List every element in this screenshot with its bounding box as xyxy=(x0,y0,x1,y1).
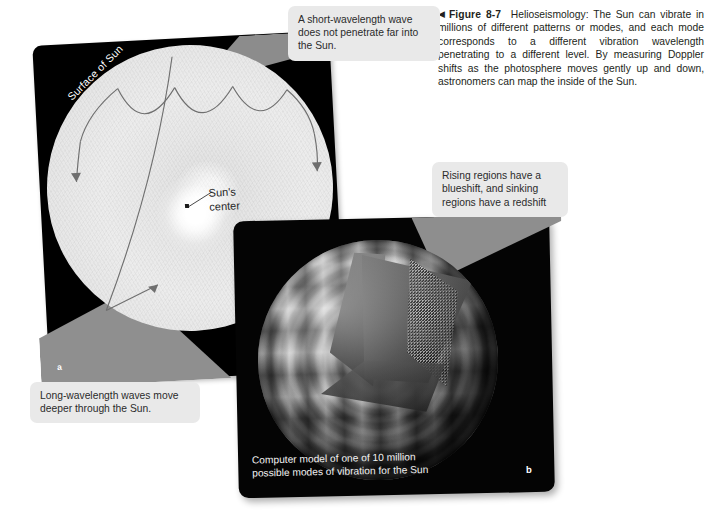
sun-center-dot xyxy=(185,204,189,208)
callout-rising-regions: Rising regions have a blueshift, and sin… xyxy=(432,162,568,217)
sun-center-label-line1: Sun's xyxy=(208,185,239,200)
ray-arc-2 xyxy=(175,85,234,115)
sun-center-label: Sun's center xyxy=(208,185,240,214)
figure-caption-text: Helioseismology: The Sun can vibrate in … xyxy=(438,9,704,87)
ray-arc-0-left xyxy=(78,89,121,142)
ray-arc-4-right xyxy=(287,88,314,134)
panel-b-caption: Computer model of one of 10 million poss… xyxy=(252,448,502,479)
figure-caption: ◀Figure 8-7 Helioseismology: The Sun can… xyxy=(438,8,704,88)
panel-b-vibration-model: Computer model of one of 10 million poss… xyxy=(236,218,552,495)
sun-center-label-line2: center xyxy=(209,199,240,214)
ray-deep-path xyxy=(93,57,185,311)
arrowhead-left xyxy=(71,173,81,183)
panel-a-letter: a xyxy=(57,362,62,372)
panel-b-letter: b xyxy=(526,464,532,475)
ray-arc-3 xyxy=(233,84,288,112)
vibration-mode-sphere xyxy=(256,238,501,483)
figure-number: Figure 8-7 xyxy=(449,9,501,20)
callout-long-wavelength: Long-wavelength waves move deeper throug… xyxy=(30,382,200,423)
callout-short-wavelength: A short-wavelength wave does not penetra… xyxy=(288,6,440,61)
arrowhead-right xyxy=(312,162,322,172)
